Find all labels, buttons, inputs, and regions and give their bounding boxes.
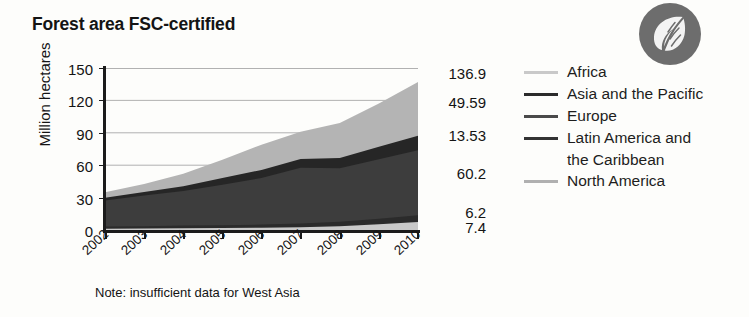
y-tick-label-60: 60 <box>47 159 93 174</box>
end-label-europe: 49.59 <box>424 95 486 110</box>
chart-note: Note: insufficient data for West Asia <box>95 285 300 300</box>
legend: Africa Asia and the Pacific Europe Latin… <box>524 62 749 193</box>
legend-label-africa: Africa <box>567 62 607 82</box>
legend-swatch-africa <box>524 62 558 83</box>
plot-area: Million hectares 150 120 90 60 30 0 <box>0 0 460 260</box>
end-label-total: 136.9 <box>424 66 486 81</box>
leaf-icon <box>639 3 701 65</box>
legend-label-latin-america: Latin America and <box>567 128 691 148</box>
legend-label-latin-america-line2: the Caribbean <box>567 150 749 171</box>
legend-swatch-north-america <box>524 171 558 192</box>
legend-item-asia-pacific[interactable]: Asia and the Pacific <box>524 84 749 105</box>
legend-item-europe[interactable]: Europe <box>524 106 749 127</box>
y-tick-label-0: 0 <box>47 224 93 239</box>
end-label-africa: 7.4 <box>424 220 486 235</box>
stacked-area-plot <box>105 68 418 230</box>
legend-item-africa[interactable]: Africa <box>524 62 749 83</box>
legend-label-north-america: North America <box>567 171 665 191</box>
chart-page: Forest area FSC-certified Million hectar… <box>0 0 749 317</box>
y-tick-label-90: 90 <box>47 127 93 142</box>
legend-swatch-asia-pacific <box>524 84 558 105</box>
legend-swatch-europe <box>524 106 558 127</box>
y-tick-label-30: 30 <box>47 192 93 207</box>
y-tick-label-150: 150 <box>47 62 93 77</box>
y-axis-line <box>103 66 106 232</box>
legend-swatch-latin-america <box>524 128 558 149</box>
leaf-badge <box>639 3 701 65</box>
end-label-latin-america: 13.53 <box>424 128 486 143</box>
y-tick-label-120: 120 <box>47 94 93 109</box>
legend-item-north-america[interactable]: North America <box>524 171 749 192</box>
end-label-north-america: 60.2 <box>424 166 486 181</box>
legend-label-europe: Europe <box>567 106 617 126</box>
legend-item-latin-america[interactable]: Latin America and <box>524 128 749 149</box>
end-label-asia-pacific: 6.2 <box>424 205 486 220</box>
legend-label-asia-pacific: Asia and the Pacific <box>567 84 703 104</box>
